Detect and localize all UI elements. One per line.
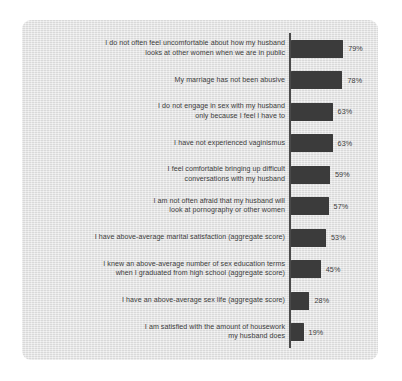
- bar-container: 28%: [291, 285, 329, 317]
- bar-value-label: 59%: [335, 170, 350, 179]
- bar-value-label: 78%: [347, 76, 362, 85]
- bar: [291, 103, 333, 121]
- bar-category-label: I knew an above-average number of sex ed…: [70, 260, 285, 279]
- bar-row: I am not often afraid that my husband wi…: [22, 191, 378, 223]
- bar: [291, 229, 326, 247]
- bar-value-label: 28%: [314, 296, 329, 305]
- bar-row: I have above-average marital satisfactio…: [22, 222, 378, 254]
- bar-category-label: My marriage has not been abusive: [70, 76, 285, 85]
- bar-container: 79%: [291, 33, 363, 65]
- bar-category-label: I am not often afraid that my husband wi…: [70, 197, 285, 216]
- bar-row: I do not often feel uncomfortable about …: [22, 33, 378, 65]
- bar-container: 45%: [291, 254, 340, 286]
- bar-value-label: 53%: [331, 233, 346, 242]
- bar-category-label: I have not experienced vaginismus: [70, 139, 285, 148]
- bar-category-label: I have above-average marital satisfactio…: [70, 233, 285, 242]
- bar: [291, 71, 342, 89]
- bar: [291, 323, 304, 341]
- bar: [291, 197, 329, 215]
- bar-container: 78%: [291, 65, 362, 97]
- bar-value-label: 45%: [326, 265, 341, 274]
- bar-row: I knew an above-average number of sex ed…: [22, 254, 378, 286]
- bar-container: 63%: [291, 96, 352, 128]
- bar-value-label: 63%: [338, 139, 353, 148]
- bar-container: 63%: [291, 128, 352, 160]
- bar-row: I have an above-average sex life (aggreg…: [22, 285, 378, 317]
- bar: [291, 134, 333, 152]
- bar-row: I have not experienced vaginismus63%: [22, 128, 378, 160]
- bar: [291, 40, 343, 58]
- bar: [291, 292, 309, 310]
- bar-value-label: 63%: [338, 107, 353, 116]
- bar-category-label: I am satisfied with the amount of housew…: [70, 323, 285, 342]
- bar-category-label: I feel comfortable bringing up difficult…: [70, 165, 285, 184]
- bar-category-label: I have an above-average sex life (aggreg…: [70, 296, 285, 305]
- bar-value-label: 19%: [309, 328, 324, 337]
- bar-container: 19%: [291, 317, 323, 349]
- bar-category-label: I do not often feel uncomfortable about …: [70, 39, 285, 58]
- bar-container: 57%: [291, 191, 348, 223]
- bar: [291, 260, 321, 278]
- bar-row: I feel comfortable bringing up difficult…: [22, 159, 378, 191]
- bar-category-label: I do not engage in sex with my husband o…: [70, 102, 285, 121]
- bar-container: 59%: [291, 159, 350, 191]
- bar-row: My marriage has not been abusive78%: [22, 65, 378, 97]
- bar-value-label: 57%: [334, 202, 349, 211]
- chart-card: I do not often feel uncomfortable about …: [22, 20, 378, 360]
- bar-container: 53%: [291, 222, 346, 254]
- bar-chart-plot: I do not often feel uncomfortable about …: [22, 20, 378, 360]
- bar-value-label: 79%: [348, 44, 363, 53]
- bar-row: I am satisfied with the amount of housew…: [22, 317, 378, 349]
- bar: [291, 166, 330, 184]
- bar-row: I do not engage in sex with my husband o…: [22, 96, 378, 128]
